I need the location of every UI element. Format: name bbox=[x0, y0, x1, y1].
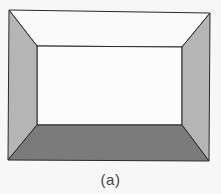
floor-face bbox=[8, 125, 209, 161]
ceiling-face bbox=[9, 10, 210, 47]
back-wall-face bbox=[37, 46, 182, 125]
figure-caption: (a) bbox=[0, 171, 221, 188]
room-perspective-diagram bbox=[0, 0, 221, 194]
